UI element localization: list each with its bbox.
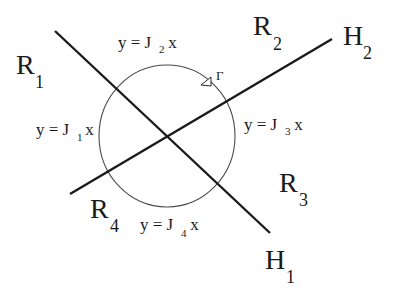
region-r1-label: R 1 [16, 49, 44, 92]
equation-j4: y = J 4 x [140, 215, 199, 239]
equation-j3: y = J 3 x [244, 115, 303, 137]
equation-j4-prefix: y = J [140, 215, 174, 234]
equation-j1: y = J 1 x [36, 120, 94, 143]
hyperplane-h1-letter: H [265, 244, 285, 275]
region-r2-letter: R [253, 10, 272, 41]
region-r1-letter: R [16, 49, 35, 80]
region-r4-label: R 4 [90, 193, 119, 236]
switching-system-diagram: Γ y = J 2 x y = J 1 x y = J 3 x y = J 4 … [0, 0, 393, 295]
hyperplane-h1-label: H 1 [265, 244, 295, 287]
region-r3-subscript: 3 [299, 190, 308, 210]
region-r4-letter: R [90, 193, 109, 224]
region-r2-label: R 2 [253, 10, 282, 54]
region-r1-subscript: 1 [35, 72, 44, 92]
hyperplane-h2-letter: H [343, 20, 363, 51]
hyperplane-h2-subscript: 2 [363, 43, 372, 63]
hyperplane-h2-label: H 2 [343, 20, 372, 63]
region-r4-subscript: 4 [110, 216, 119, 236]
equation-j3-suffix: x [290, 115, 303, 134]
region-r3-label: R 3 [279, 167, 308, 210]
hyperplane-h1-subscript: 1 [286, 267, 295, 287]
equation-j2: y = J 2 x [118, 33, 177, 55]
equation-j1-suffix: x [81, 120, 94, 139]
equation-j2-prefix: y = J [118, 33, 152, 52]
equation-j3-prefix: y = J [244, 115, 278, 134]
gamma-label: Γ [216, 68, 224, 83]
equation-j1-prefix: y = J [36, 120, 70, 139]
region-r2-subscript: 2 [273, 34, 282, 54]
equation-j2-suffix: x [164, 33, 177, 52]
region-r3-letter: R [279, 167, 298, 198]
equation-j4-suffix: x [186, 215, 199, 234]
